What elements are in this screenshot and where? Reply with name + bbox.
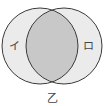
right-set-label: ロ [83,40,94,53]
left-set-label: イ [9,40,20,53]
universe-caption: 乙 [47,92,58,105]
venn-diagram: イ ロ 乙 [0,0,105,106]
